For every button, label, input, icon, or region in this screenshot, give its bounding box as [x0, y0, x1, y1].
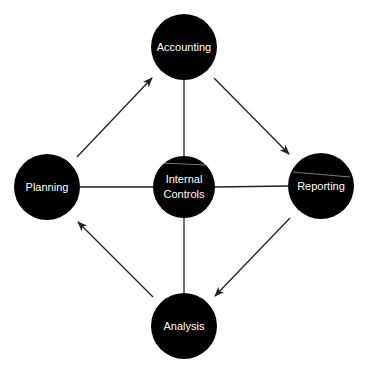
node-analysis: Analysis	[151, 293, 217, 359]
arrow-accounting-to-reporting	[214, 78, 289, 154]
node-planning-label: Planning	[26, 181, 69, 193]
arrow-analysis-to-planning	[78, 222, 153, 297]
internal-controls-cycle-diagram: Accounting Internal Controls Planning Re…	[0, 0, 366, 374]
node-internal-controls-line1: Internal	[166, 173, 203, 185]
node-planning: Planning	[14, 154, 80, 220]
node-internal-controls-line2: Controls	[164, 188, 205, 200]
node-accounting: Accounting	[151, 14, 217, 80]
node-accounting-label: Accounting	[157, 41, 211, 53]
node-analysis-label: Analysis	[164, 320, 205, 332]
connector-center-reporting	[215, 186, 288, 187]
node-internal-controls: Internal Controls	[153, 156, 215, 218]
node-reporting-label: Reporting	[297, 180, 345, 192]
node-reporting: Reporting	[288, 153, 354, 219]
arrow-planning-to-accounting	[77, 78, 152, 157]
diagram-svg: Accounting Internal Controls Planning Re…	[0, 0, 366, 374]
arrow-reporting-to-analysis	[215, 218, 290, 296]
